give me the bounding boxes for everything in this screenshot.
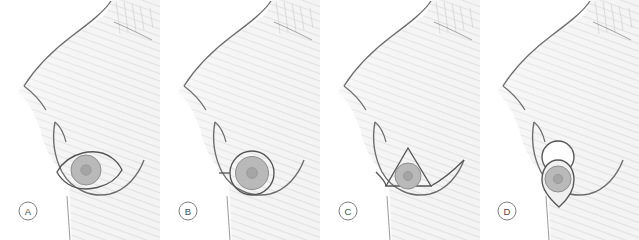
panel-d-keyhole-incision: D [479, 0, 639, 240]
nipple-b [247, 168, 258, 179]
panel-label-d: D [498, 202, 516, 220]
panel-b-periareolar-incision: B [160, 0, 320, 240]
panel-label-b: B [179, 202, 197, 220]
panel-label-c: C [339, 202, 357, 220]
panel-label-text-c: C [345, 206, 352, 217]
panel-label-text-d: D [504, 206, 511, 217]
nipple-d [553, 174, 562, 183]
panel-c-triangular-incision: C [320, 0, 480, 240]
torso-side-line-b [227, 196, 230, 240]
panel-a-elliptical-incision: A [0, 0, 160, 240]
torso-side-line-a [67, 196, 70, 240]
figure-panel-group: A [0, 0, 639, 240]
torso-side-line-c [387, 196, 390, 240]
panel-label-text-b: B [185, 206, 191, 217]
nipple-c [403, 171, 412, 180]
nipple-a [81, 165, 91, 175]
panel-label-text-a: A [25, 206, 32, 217]
torso-side-line-d [546, 196, 549, 240]
panel-label-a: A [19, 202, 37, 220]
